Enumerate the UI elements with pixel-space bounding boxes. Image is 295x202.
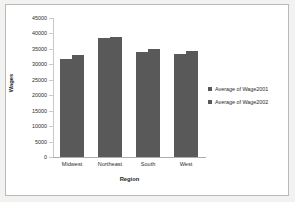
y-axis-tick: [49, 157, 53, 158]
bar: [136, 52, 148, 157]
bar: [186, 51, 198, 157]
chart-figure: 4500040000350003000025000200001500010000…: [0, 0, 295, 202]
bar: [174, 54, 186, 157]
bar: [148, 49, 160, 157]
legend-swatch-icon: [208, 100, 212, 104]
legend-item: Average of Wage2001: [208, 86, 286, 92]
y-axis-tick-label: 0: [44, 154, 47, 160]
y-axis-tick-label: 10000: [32, 123, 47, 129]
legend-label: Average of Wage2001: [215, 86, 268, 92]
x-axis-title: Region: [53, 176, 206, 182]
chart-legend: Average of Wage2001Average of Wage2002: [208, 86, 286, 112]
plot-area: [53, 18, 205, 157]
x-axis-tick-label: West: [167, 161, 205, 168]
legend-item: Average of Wage2002: [208, 99, 286, 105]
y-axis-tick-label: 35000: [32, 46, 47, 52]
bar: [60, 59, 72, 157]
bar: [110, 37, 122, 157]
y-axis-tick-label: 30000: [32, 61, 47, 67]
x-axis-line: [53, 157, 206, 158]
legend-swatch-icon: [208, 87, 212, 91]
legend-label: Average of Wage2002: [215, 99, 268, 105]
y-axis-tick-label: 20000: [32, 92, 47, 98]
bar-group: [98, 18, 122, 157]
bar: [98, 38, 110, 157]
bar-group: [136, 18, 160, 157]
y-axis-tick-label: 45000: [32, 15, 47, 21]
bar-group: [174, 18, 198, 157]
x-axis-tick-label: Northeast: [91, 161, 129, 168]
x-axis-tick-label: South: [129, 161, 167, 168]
bar-group: [60, 18, 84, 157]
y-axis-tick-label: 40000: [32, 30, 47, 36]
y-axis-tick-label: 25000: [32, 77, 47, 83]
y-axis-title: Wages: [8, 63, 14, 103]
x-axis-tick-label: Midwest: [53, 161, 91, 168]
y-axis-tick-label: 5000: [35, 139, 47, 145]
bar: [72, 55, 84, 157]
y-axis-tick-label: 15000: [32, 108, 47, 114]
